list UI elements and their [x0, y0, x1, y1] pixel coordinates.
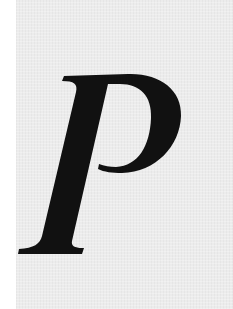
italic-p-glyph	[0, 0, 233, 309]
